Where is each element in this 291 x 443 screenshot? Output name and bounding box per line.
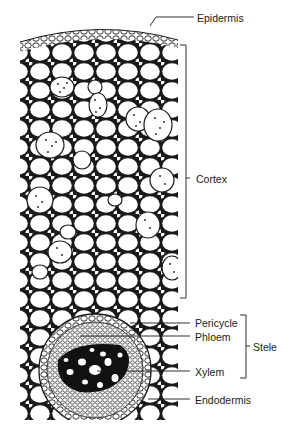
- cortex-tissue: [18, 20, 182, 426]
- label-cortex: Cortex: [196, 173, 227, 185]
- label-epidermis: Epidermis: [197, 12, 244, 24]
- root-cross-section-drawing: [0, 0, 291, 443]
- stele-bracket: [240, 315, 246, 378]
- label-xylem: Xylem: [195, 366, 224, 378]
- stele: [39, 314, 151, 426]
- label-stele: Stele: [253, 341, 277, 353]
- label-endodermis: Endodermis: [195, 394, 251, 406]
- label-phloem: Phloem: [195, 331, 231, 343]
- epidermis-leader-line: [150, 17, 194, 26]
- cortex-bracket: [180, 45, 186, 298]
- label-pericycle: Pericycle: [195, 317, 238, 329]
